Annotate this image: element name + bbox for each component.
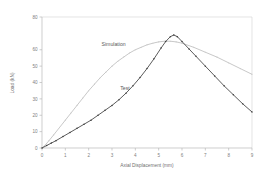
data-point	[228, 62, 229, 63]
data-point	[51, 142, 53, 144]
x-tick-label: 3	[111, 153, 114, 158]
data-point	[45, 144, 46, 145]
data-point	[46, 145, 48, 147]
data-point	[223, 85, 225, 87]
data-point	[94, 84, 95, 85]
data-point	[176, 41, 177, 42]
data-point	[205, 52, 206, 53]
data-point	[125, 92, 127, 94]
x-axis-ticks: 0123456789	[41, 148, 254, 158]
y-tick-label: 20	[32, 113, 38, 118]
data-point	[158, 41, 159, 42]
data-point	[164, 41, 165, 42]
data-point	[170, 36, 172, 38]
x-tick-label: 9	[251, 153, 254, 158]
load-displacement-chart: 010203040506080 0123456789 SimulationTes…	[0, 0, 272, 182]
data-point	[59, 127, 60, 128]
data-point	[170, 41, 171, 42]
data-point	[240, 68, 241, 69]
data-point	[129, 52, 130, 53]
data-point	[97, 115, 99, 117]
data-point	[69, 132, 71, 134]
data-point	[216, 57, 217, 58]
data-point	[123, 57, 124, 58]
data-point	[205, 65, 207, 67]
x-tick-label: 7	[204, 153, 207, 158]
data-point	[76, 105, 77, 106]
data-point	[193, 47, 194, 48]
y-tick-label: 10	[32, 129, 38, 134]
y-axis-title: Load (kN)	[10, 72, 15, 93]
data-point	[48, 140, 49, 141]
data-point	[118, 99, 120, 101]
data-point	[251, 111, 253, 113]
data-point	[160, 47, 162, 49]
data-point	[71, 112, 72, 113]
data-point	[188, 48, 190, 50]
chart-container: 010203040506080 0123456789 SimulationTes…	[0, 0, 272, 182]
data-point	[53, 134, 54, 135]
data-point	[177, 36, 179, 38]
data-point	[104, 110, 106, 112]
data-point	[55, 140, 57, 142]
data-point	[117, 61, 118, 62]
series-layer	[41, 34, 253, 148]
series-label-simulation: Simulation	[102, 41, 126, 47]
data-point	[146, 44, 147, 45]
data-point	[153, 58, 155, 60]
x-tick-label: 0	[41, 153, 44, 158]
data-point	[181, 43, 182, 44]
data-point	[82, 98, 83, 99]
y-axis-ticks: 010203040506080	[32, 15, 42, 151]
data-point	[141, 47, 142, 48]
data-point	[165, 41, 167, 43]
x-tick-label: 2	[87, 153, 90, 158]
y-tick-label: 0	[35, 146, 38, 151]
data-point	[88, 90, 89, 91]
x-tick-label: 6	[181, 153, 184, 158]
data-point	[251, 74, 252, 75]
data-point	[41, 147, 43, 149]
data-point	[135, 49, 136, 50]
x-tick-label: 5	[157, 153, 160, 158]
data-point	[173, 34, 175, 36]
data-point	[83, 124, 85, 126]
data-point	[76, 128, 78, 130]
y-tick-label: 50	[32, 64, 38, 69]
data-point	[242, 103, 244, 105]
data-point	[152, 43, 153, 44]
data-point	[181, 41, 183, 43]
data-point	[146, 68, 148, 70]
data-point	[65, 120, 66, 121]
y-tick-label: 40	[32, 80, 38, 85]
data-point	[90, 119, 92, 121]
data-point	[106, 71, 107, 72]
data-point	[139, 77, 141, 79]
data-point	[214, 75, 216, 77]
data-point	[233, 94, 235, 96]
data-point	[111, 66, 112, 67]
series-line-simulation	[42, 41, 252, 148]
series-annotations: SimulationTest	[102, 41, 131, 91]
series-line-test	[42, 35, 252, 148]
y-tick-label: 80	[32, 15, 38, 20]
x-tick-label: 4	[134, 153, 137, 158]
data-point	[111, 105, 113, 107]
x-tick-label: 1	[64, 153, 67, 158]
series-label-test: Test	[120, 85, 130, 91]
data-point	[62, 136, 64, 138]
data-point	[195, 56, 197, 58]
data-point	[132, 85, 134, 87]
data-point	[100, 77, 101, 78]
y-tick-label: 60	[32, 47, 38, 52]
x-tick-label: 8	[227, 153, 230, 158]
x-axis-title: Axial Displacement (mm)	[120, 163, 174, 168]
y-tick-label: 30	[32, 97, 38, 102]
